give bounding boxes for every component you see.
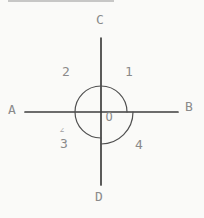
geometry-figure: A B C D O 1 2 3 ∠ 4 <box>0 0 204 218</box>
angle-label-4: 4 <box>135 138 143 151</box>
diagram-canvas <box>0 0 204 218</box>
point-label-O: O <box>105 111 112 123</box>
angle-label-2: 2 <box>62 65 70 78</box>
point-label-D: D <box>95 190 103 203</box>
point-label-B: B <box>185 100 193 113</box>
angle-symbol-mark: ∠ <box>60 127 65 135</box>
angle-label-3: 3 <box>60 137 68 150</box>
point-label-A: A <box>8 103 16 116</box>
point-label-C: C <box>96 13 104 26</box>
angle-label-1: 1 <box>125 65 133 78</box>
